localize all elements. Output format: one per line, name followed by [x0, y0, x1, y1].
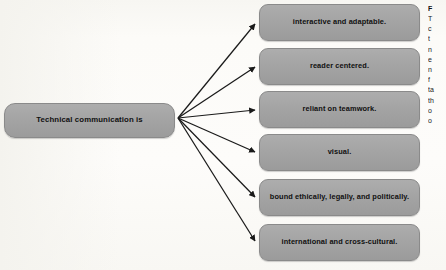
caption-line: th — [428, 96, 446, 106]
branch-node-label: reader centered. — [310, 62, 369, 70]
branch-node-reliant-on-teamwork: reliant on teamwork. — [259, 91, 420, 128]
caption-line: c — [428, 24, 446, 34]
caption-line: T — [428, 14, 446, 24]
branch-node-reader-centered: reader centered. — [259, 48, 420, 85]
figure-caption-body: T c t n e n f ta th o o — [428, 14, 446, 126]
caption-line: f — [428, 75, 446, 85]
caption-line: n — [428, 45, 446, 55]
branch-node-label: bound ethically, legally, and politicall… — [270, 193, 409, 201]
root-node-technical-communication: Technical communication is — [4, 103, 175, 138]
figure-canvas: Technical communication is interactive a… — [0, 0, 446, 270]
branch-node-bound-ethically-legally-politically: bound ethically, legally, and politicall… — [259, 179, 420, 216]
connector-arrow-2 — [178, 110, 255, 118]
branch-node-label: international and cross-cultural. — [282, 238, 398, 246]
caption-line: o — [428, 116, 446, 126]
branch-node-interactive-and-adaptable: interactive and adaptable. — [259, 4, 420, 41]
connector-arrow-1 — [178, 67, 255, 118]
connector-arrow-3 — [178, 118, 255, 152]
branch-node-label: interactive and adaptable. — [293, 18, 386, 26]
branch-node-international-and-cross-cultural: international and cross-cultural. — [259, 224, 420, 261]
figure-caption-column: F T c t n e n f ta th o o — [428, 4, 446, 144]
connector-arrow-4 — [178, 118, 255, 197]
caption-line: e — [428, 55, 446, 65]
caption-line: o — [428, 106, 446, 116]
figure-caption-heading: F — [428, 4, 446, 14]
branch-node-label: visual. — [328, 148, 352, 156]
connector-arrow-0 — [178, 24, 255, 118]
connector-arrow-5 — [178, 118, 255, 241]
caption-line: t — [428, 34, 446, 44]
root-node-label: Technical communication is — [36, 116, 142, 125]
caption-line: ta — [428, 85, 446, 95]
branch-node-label: reliant on teamwork. — [303, 105, 377, 113]
caption-line: n — [428, 65, 446, 75]
branch-node-visual: visual. — [259, 134, 420, 171]
